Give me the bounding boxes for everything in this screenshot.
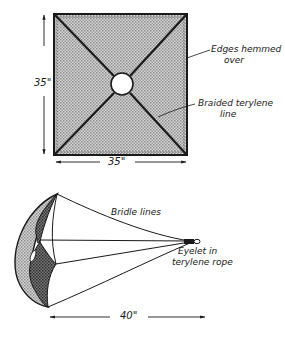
- eyelet-callout-line2: terylene rope: [172, 257, 233, 267]
- edges-callout-line1: Edges hemmed: [211, 44, 281, 54]
- center-vent-hole: [111, 73, 133, 95]
- braided-callout-line2: line: [220, 109, 236, 119]
- eyelet-icon: [194, 239, 200, 243]
- diagram-canvas: 35" 35" Edges hemmed over Braided teryle…: [0, 0, 285, 337]
- braided-callout-line1: Braided terylene: [198, 98, 273, 108]
- edges-callout-line2: over: [224, 55, 244, 65]
- height-dimension-label: 35": [33, 77, 52, 88]
- parachute-side-view: [15, 194, 200, 307]
- length-dimension-label: 40": [119, 310, 138, 321]
- bridle-line-4: [48, 243, 190, 307]
- edges-leader-line: [187, 50, 210, 58]
- canopy-top-view: [54, 14, 187, 155]
- eyelet-callout-line1: Eyelet in: [178, 246, 217, 256]
- width-dimension-label: 35": [107, 156, 126, 167]
- bridle-line-3: [56, 242, 190, 264]
- rope-end: [184, 239, 194, 244]
- bridle-line-2: [40, 240, 190, 241]
- bridle-lines-label: Bridle lines: [111, 207, 161, 217]
- bridle-line-1: [57, 194, 190, 241]
